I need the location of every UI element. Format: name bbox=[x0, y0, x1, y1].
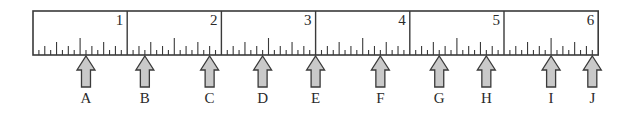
arrow-up-icon bbox=[542, 56, 560, 87]
marker-label: I bbox=[549, 90, 554, 106]
marker-j: J bbox=[583, 56, 601, 106]
marker-a: A bbox=[77, 56, 95, 106]
marker-g: G bbox=[430, 56, 448, 106]
marker-label: J bbox=[589, 90, 595, 106]
inch-number: 1 bbox=[116, 12, 124, 28]
marker-label: D bbox=[257, 90, 268, 106]
marker-c: C bbox=[201, 56, 219, 106]
marker-label: F bbox=[376, 90, 384, 106]
inch-number: 6 bbox=[587, 12, 595, 28]
marker-label: H bbox=[481, 90, 492, 106]
marker-f: F bbox=[371, 56, 389, 106]
arrow-up-icon bbox=[136, 56, 154, 87]
inch-number: 3 bbox=[304, 12, 312, 28]
marker-arrows: ABCDEFGHIJ bbox=[77, 56, 601, 106]
arrow-up-icon bbox=[307, 56, 325, 87]
arrow-up-icon bbox=[77, 56, 95, 87]
inch-number: 2 bbox=[210, 12, 218, 28]
ruler-diagram: 123456 ABCDEFGHIJ bbox=[0, 0, 628, 113]
marker-b: B bbox=[136, 56, 154, 106]
inch-number: 5 bbox=[493, 12, 501, 28]
marker-label: G bbox=[434, 90, 445, 106]
marker-d: D bbox=[254, 56, 272, 106]
marker-label: C bbox=[205, 90, 215, 106]
arrow-up-icon bbox=[254, 56, 272, 87]
marker-h: H bbox=[477, 56, 495, 106]
arrow-up-icon bbox=[583, 56, 601, 87]
arrow-up-icon bbox=[201, 56, 219, 87]
inch-number: 4 bbox=[398, 12, 406, 28]
marker-i: I bbox=[542, 56, 560, 106]
arrow-up-icon bbox=[477, 56, 495, 87]
marker-e: E bbox=[307, 56, 325, 106]
arrow-up-icon bbox=[430, 56, 448, 87]
marker-label: B bbox=[140, 90, 150, 106]
arrow-up-icon bbox=[371, 56, 389, 87]
marker-label: E bbox=[311, 90, 320, 106]
marker-label: A bbox=[81, 90, 92, 106]
